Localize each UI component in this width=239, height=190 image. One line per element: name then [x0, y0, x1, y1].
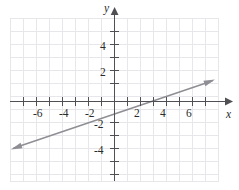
y-tick-label--2: -2 — [94, 119, 104, 131]
x-tick-label-4: 4 — [160, 108, 166, 120]
coordinate-plane-figure: -6 -4 -2 2 4 6 4 2 -2 -4 y x — [0, 0, 239, 190]
y-axis-label: y — [104, 3, 109, 15]
y-axis-arrow — [111, 7, 119, 15]
y-tick-label-4: 4 — [100, 41, 106, 53]
x-tick-label--4: -4 — [59, 108, 69, 120]
y-tick-label-2: 2 — [100, 67, 106, 79]
x-tick-label-2: 2 — [134, 108, 140, 120]
y-tick-label--4: -4 — [94, 145, 104, 157]
x-axis-label: x — [226, 109, 231, 121]
axis-arrowheads — [111, 7, 233, 105]
x-axis-arrow — [225, 98, 233, 106]
plot-canvas — [0, 0, 239, 190]
x-tick-label--6: -6 — [33, 108, 43, 120]
x-tick-label-6: 6 — [186, 108, 192, 120]
